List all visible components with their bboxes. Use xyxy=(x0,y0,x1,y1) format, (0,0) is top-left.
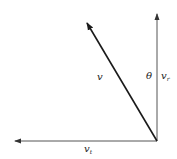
label-theta: θ xyxy=(146,70,152,81)
label-v-t: vt xyxy=(84,143,93,155)
vector-v xyxy=(87,23,157,141)
label-v-r: vr xyxy=(161,70,171,82)
velocity-vector-diagram: v θ vr vt xyxy=(0,0,177,159)
label-v: v xyxy=(97,71,103,82)
